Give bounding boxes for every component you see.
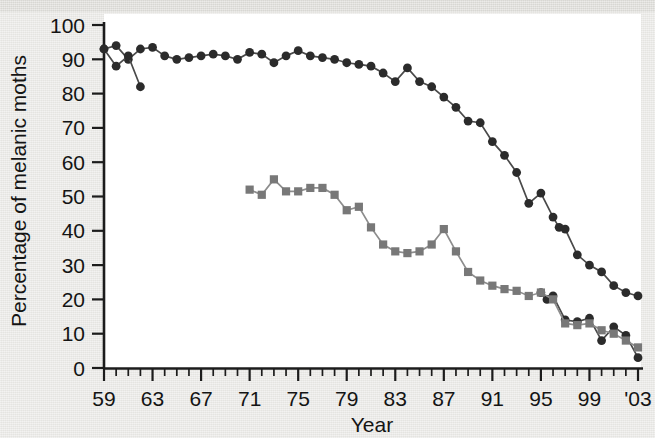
data-point-marker <box>585 319 593 327</box>
data-point-marker <box>476 118 485 127</box>
data-point-marker <box>209 50 218 59</box>
chart-container: 0102030405060708090100 59636771757983879… <box>0 0 655 438</box>
data-point-marker <box>597 326 605 334</box>
data-point-marker <box>573 250 582 259</box>
x-tick-label: 71 <box>238 387 261 410</box>
data-point-marker <box>112 62 121 71</box>
data-point-marker <box>597 336 606 345</box>
x-tick-label: 95 <box>529 387 552 410</box>
data-point-marker <box>488 137 497 146</box>
x-axis-ticks: 5963677175798387919599'03 <box>92 368 651 410</box>
y-tick-label: 80 <box>62 82 85 105</box>
data-point-marker <box>537 189 546 198</box>
data-point-marker <box>440 225 448 233</box>
y-tick-label: 10 <box>62 322 85 345</box>
data-point-marker <box>343 206 351 214</box>
y-axis-ticks: 0102030405060708090100 <box>50 14 104 380</box>
data-point-marker <box>573 321 581 329</box>
y-tick-label: 0 <box>73 357 85 380</box>
y-tick-label: 90 <box>62 48 85 71</box>
data-point-marker <box>585 261 594 270</box>
data-point-marker <box>525 292 533 300</box>
data-point-marker <box>513 287 521 295</box>
data-point-marker <box>136 45 145 54</box>
data-point-marker <box>318 184 326 192</box>
x-tick-label: 59 <box>92 387 115 410</box>
data-point-marker <box>476 276 484 284</box>
data-point-marker <box>330 191 338 199</box>
data-point-marker <box>452 247 460 255</box>
data-point-marker <box>136 82 145 91</box>
data-point-marker <box>318 53 327 62</box>
y-tick-label: 30 <box>62 254 85 277</box>
x-tick-label: 75 <box>287 387 310 410</box>
x-tick-label: 83 <box>384 387 407 410</box>
data-point-marker <box>415 77 424 86</box>
y-tick-label: 40 <box>62 219 85 242</box>
x-tick-label: 63 <box>141 387 164 410</box>
y-tick-label: 60 <box>62 151 85 174</box>
data-point-marker <box>561 319 569 327</box>
y-tick-label: 20 <box>62 288 85 311</box>
data-point-marker <box>500 285 508 293</box>
data-point-marker <box>500 151 509 160</box>
data-point-marker <box>452 103 461 112</box>
data-point-marker <box>391 247 399 255</box>
data-point-marker <box>524 199 533 208</box>
x-tick-label: 67 <box>189 387 212 410</box>
data-point-marker <box>391 77 400 86</box>
x-tick-label: '03 <box>624 387 651 410</box>
data-point-marker <box>549 213 558 222</box>
data-point-marker <box>185 53 194 62</box>
data-point-marker <box>282 187 290 195</box>
data-point-marker <box>257 50 266 59</box>
data-point-marker <box>367 62 376 71</box>
data-point-marker <box>221 51 230 60</box>
melanic-moth-line-chart: 0102030405060708090100 59636771757983879… <box>0 0 655 438</box>
data-point-marker <box>488 282 496 290</box>
data-point-marker <box>245 48 254 57</box>
data-point-marker <box>427 82 436 91</box>
data-point-marker <box>537 288 545 296</box>
data-point-marker <box>233 55 242 64</box>
data-point-marker <box>439 93 448 102</box>
data-point-marker <box>610 330 618 338</box>
data-point-marker <box>367 223 375 231</box>
data-point-marker <box>270 175 278 183</box>
data-point-marker <box>621 288 630 297</box>
data-point-marker <box>415 247 423 255</box>
x-tick-label: 99 <box>578 387 601 410</box>
x-tick-label: 79 <box>335 387 358 410</box>
data-point-marker <box>464 117 473 126</box>
data-point-marker <box>100 45 109 54</box>
y-axis-title: Percentage of melanic moths <box>7 55 30 327</box>
data-point-marker <box>609 281 618 290</box>
data-point-marker <box>634 353 643 362</box>
data-point-marker <box>561 225 570 234</box>
data-point-marker <box>342 58 351 67</box>
data-point-marker <box>172 55 181 64</box>
data-point-marker <box>197 51 206 60</box>
x-tick-label: 91 <box>481 387 504 410</box>
data-point-marker <box>330 55 339 64</box>
data-point-marker <box>379 240 387 248</box>
data-point-marker <box>634 343 642 351</box>
data-point-marker <box>355 203 363 211</box>
x-tick-label: 87 <box>432 387 455 410</box>
data-point-marker <box>258 191 266 199</box>
data-point-marker <box>597 268 606 277</box>
data-point-marker <box>634 292 643 301</box>
y-tick-label: 100 <box>50 14 85 37</box>
data-point-marker <box>622 336 630 344</box>
data-point-marker <box>549 295 557 303</box>
data-point-marker <box>464 268 472 276</box>
data-point-marker <box>403 249 411 257</box>
data-point-marker <box>282 51 291 60</box>
data-point-marker <box>148 43 157 52</box>
figure-page: 0102030405060708090100 59636771757983879… <box>0 0 655 438</box>
data-point-marker <box>512 168 521 177</box>
data-point-marker <box>354 60 363 69</box>
y-tick-label: 50 <box>62 185 85 208</box>
data-point-marker <box>160 51 169 60</box>
data-point-marker <box>306 51 315 60</box>
